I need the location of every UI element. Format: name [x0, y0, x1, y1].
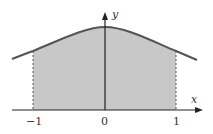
y-axis-label: y: [111, 8, 119, 21]
x-axis-label: x: [191, 93, 198, 106]
tick-label-neg1: −1: [26, 115, 42, 128]
diagram-canvas: x y −1 0 1: [0, 0, 213, 134]
tick-label-1: 1: [173, 115, 180, 128]
y-axis-arrow-icon: [102, 12, 108, 20]
x-axis-arrow-icon: [195, 107, 203, 113]
tick-label-0: 0: [101, 115, 108, 128]
